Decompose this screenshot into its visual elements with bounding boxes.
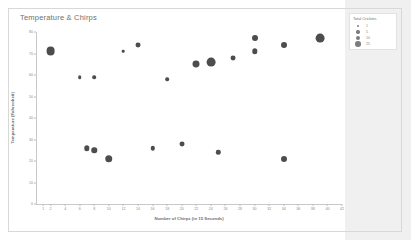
y-tick-label: 60 [29,73,33,77]
x-tick-mark [342,204,343,206]
legend-dot-icon [356,30,359,33]
x-tick-label: 4 [64,207,66,211]
y-tick-mark [34,53,36,54]
x-tick-label: 16 [151,207,155,211]
legend-entries: 151025 [353,23,393,47]
x-tick-mark [94,204,95,206]
x-tick-label: 20 [180,207,184,211]
chart-title: Temperature & Chirps [20,13,97,22]
y-tick-label: 0 [31,202,33,206]
x-tick-mark [65,204,66,206]
x-tick-label: 6 [79,207,81,211]
x-tick-mark [283,204,284,206]
y-tick-label: 70 [29,52,33,56]
x-tick-mark [138,204,139,206]
x-tick-mark [196,204,197,206]
data-point[interactable] [46,47,55,56]
legend-dot-icon [355,41,361,47]
x-tick-mark [327,204,328,206]
x-tick-label: 32 [267,207,271,211]
x-tick-label: 26 [223,207,227,211]
legend-dot-icon [356,36,360,40]
x-tick-label: 38 [311,207,315,211]
data-point[interactable] [230,55,235,60]
plot-area: 01020304050607080 1246810121416182022242… [36,32,342,204]
x-tick-mark [167,204,168,206]
x-tick-label: 24 [209,207,213,211]
data-point[interactable] [316,34,325,43]
x-tick-label: 22 [194,207,198,211]
x-tick-label: 1 [42,207,44,211]
y-tick-label: 40 [29,116,33,120]
y-tick-mark [34,139,36,140]
data-point[interactable] [206,58,215,67]
x-tick-mark [152,204,153,206]
x-tick-label: 2 [50,207,52,211]
legend-label: 1 [366,24,368,28]
x-tick-label: 18 [165,207,169,211]
x-tick-mark [240,204,241,206]
legend-swatch [353,25,363,27]
y-tick-mark [34,118,36,119]
legend-label: 5 [366,30,368,34]
y-tick-mark [34,75,36,76]
data-point[interactable] [281,156,287,162]
chart-canvas: Temperature & Chirps 01020304050607080 1… [0,0,411,240]
data-point[interactable] [105,155,113,163]
y-axis-line [36,32,37,204]
x-axis-line [36,204,342,205]
data-point[interactable] [165,77,169,81]
x-tick-mark [312,204,313,206]
legend: Total Crickets 151025 [349,13,397,50]
y-tick-label: 50 [29,95,33,99]
x-tick-label: 30 [253,207,257,211]
x-tick-mark [269,204,270,206]
x-tick-label: 34 [282,207,286,211]
y-axis-label: Temperature (Fahrenheit) [10,92,15,144]
plot-background [36,32,342,204]
x-tick-mark [79,204,80,206]
y-tick-mark [34,161,36,162]
x-tick-mark [254,204,255,206]
data-point[interactable] [179,141,184,146]
data-point[interactable] [136,42,141,47]
x-tick-label: 12 [121,207,125,211]
legend-swatch [353,30,363,33]
x-tick-mark [181,204,182,206]
x-tick-mark [108,204,109,206]
legend-label: 25 [366,42,370,46]
y-tick-mark [34,32,36,33]
data-point[interactable] [78,75,82,79]
y-tick-label: 80 [29,30,33,34]
data-point[interactable] [281,42,287,48]
x-tick-mark [123,204,124,206]
y-tick-label: 20 [29,159,33,163]
legend-label: 10 [366,36,370,40]
legend-swatch [353,36,363,40]
x-tick-mark [210,204,211,206]
x-tick-label: 14 [136,207,140,211]
x-tick-label: 42 [340,207,344,211]
x-tick-label: 8 [93,207,95,211]
x-tick-label: 36 [296,207,300,211]
legend-dot-icon [357,25,359,27]
legend-swatch [353,41,363,47]
x-axis-label: Number of Chirps (in 15 Seconds) [154,216,223,221]
y-tick-mark [34,182,36,183]
y-tick-mark [34,204,36,205]
legend-title: Total Crickets [353,16,393,21]
data-point[interactable] [193,61,200,68]
legend-entry[interactable]: 25 [353,41,393,47]
x-tick-mark [50,204,51,206]
x-tick-label: 28 [238,207,242,211]
y-tick-mark [34,96,36,97]
x-tick-mark [298,204,299,206]
data-point[interactable] [122,50,125,53]
x-tick-mark [43,204,44,206]
y-tick-label: 10 [29,181,33,185]
data-point[interactable] [252,35,258,41]
x-tick-mark [225,204,226,206]
x-tick-label: 10 [107,207,111,211]
data-point[interactable] [92,75,96,79]
y-tick-label: 30 [29,138,33,142]
